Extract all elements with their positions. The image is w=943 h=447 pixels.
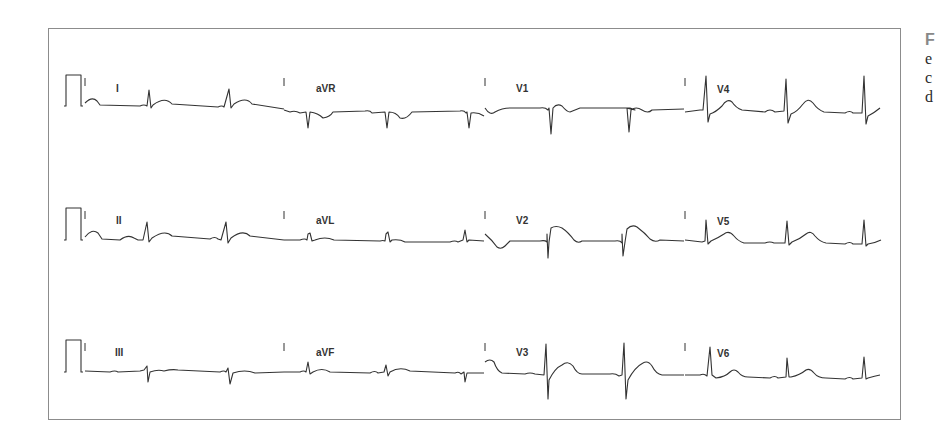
calibration-pulse-row3 (64, 340, 83, 372)
trace-aVF (284, 362, 484, 382)
lead-label-III: III (115, 347, 123, 358)
trace-V4 (685, 76, 880, 124)
lead-label-V2: V2 (516, 215, 528, 226)
trace-V2 (485, 226, 684, 258)
figure-caption-partial: F e c d (925, 30, 943, 106)
trace-II (85, 222, 284, 243)
caption-line-1: F (925, 30, 943, 49)
calibration-pulse-row2 (64, 208, 83, 240)
caption-line-4: d (925, 87, 943, 106)
trace-aVR (284, 110, 484, 128)
calibration-pulse-row1 (64, 75, 83, 106)
lead-label-V6: V6 (717, 348, 729, 359)
trace-III (85, 366, 284, 384)
lead-label-I: I (116, 83, 119, 94)
trace-I (85, 89, 284, 109)
lead-label-V1: V1 (516, 83, 528, 94)
lead-label-V4: V4 (717, 84, 729, 95)
lead-label-aVF: aVF (316, 347, 334, 358)
caption-line-3: c (925, 68, 943, 87)
lead-label-V5: V5 (717, 216, 729, 227)
trace-V6 (685, 347, 880, 379)
trace-V5 (685, 220, 881, 246)
trace-V1 (485, 105, 684, 134)
lead-label-aVL: aVL (316, 215, 334, 226)
lead-label-aVR: aVR (316, 83, 335, 94)
caption-line-2: e (925, 49, 943, 68)
trace-V3 (485, 343, 684, 399)
lead-label-V3: V3 (516, 347, 528, 358)
lead-label-II: II (116, 215, 122, 226)
ecg-traces (0, 0, 943, 447)
trace-aVL (284, 230, 484, 242)
